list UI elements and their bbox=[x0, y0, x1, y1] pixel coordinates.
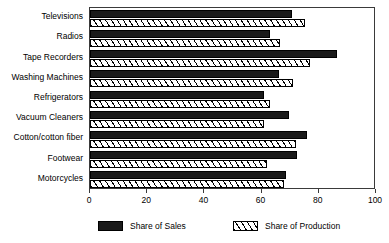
legend-item-share-of-sales: Share of Sales bbox=[98, 219, 186, 233]
legend-label-share-of-production: Share of Production bbox=[265, 221, 340, 231]
x-axis: 020406080100 bbox=[89, 189, 375, 213]
x-tick-label: 100 bbox=[368, 195, 382, 205]
bar bbox=[90, 50, 337, 58]
bar bbox=[90, 91, 264, 99]
bar bbox=[90, 79, 293, 87]
x-tick-label: 60 bbox=[256, 195, 265, 205]
x-tick-label: 20 bbox=[141, 195, 150, 205]
category-label-vacuum-cleaners: Vacuum Cleaners bbox=[16, 113, 83, 122]
category-label-radios: Radios bbox=[57, 32, 83, 41]
bar bbox=[90, 171, 286, 179]
bar bbox=[90, 10, 292, 18]
bar bbox=[90, 100, 270, 108]
x-tick-mark bbox=[375, 189, 376, 193]
bar-chart: Televisions Radios Tape Recorders Washin… bbox=[0, 0, 389, 243]
category-label-footwear: Footwear bbox=[48, 154, 83, 163]
x-tick-mark bbox=[146, 189, 147, 193]
bar bbox=[90, 151, 297, 159]
legend-label-share-of-sales: Share of Sales bbox=[130, 221, 186, 231]
x-tick-label: 80 bbox=[313, 195, 322, 205]
bar bbox=[90, 111, 289, 119]
bar bbox=[90, 131, 307, 139]
hatched-swatch-icon bbox=[233, 221, 258, 231]
plot-area bbox=[89, 7, 375, 189]
category-label-washing-machines: Washing Machines bbox=[12, 73, 84, 82]
category-axis-labels: Televisions Radios Tape Recorders Washin… bbox=[0, 7, 86, 189]
bar bbox=[90, 160, 267, 168]
category-label-refrigerators: Refrigerators bbox=[34, 93, 83, 102]
chart-legend: Share of Sales Share of Production bbox=[0, 219, 389, 237]
category-label-motorcycles: Motorcycles bbox=[38, 174, 83, 183]
bar bbox=[90, 70, 279, 78]
bar bbox=[90, 39, 280, 47]
x-tick-mark bbox=[261, 189, 262, 193]
bars-layer bbox=[90, 8, 374, 188]
bar bbox=[90, 59, 310, 67]
solid-black-swatch-icon bbox=[98, 221, 123, 231]
x-tick-label: 0 bbox=[87, 195, 92, 205]
x-tick-mark bbox=[318, 189, 319, 193]
x-tick-label: 40 bbox=[199, 195, 208, 205]
legend-item-share-of-production: Share of Production bbox=[233, 219, 340, 233]
category-label-televisions: Televisions bbox=[41, 12, 83, 21]
bar bbox=[90, 180, 284, 188]
x-tick-mark bbox=[89, 189, 90, 193]
category-label-cotton-cotton-fiber: Cotton/cotton fiber bbox=[14, 133, 83, 142]
bar bbox=[90, 30, 270, 38]
bar bbox=[90, 120, 264, 128]
x-tick-mark bbox=[203, 189, 204, 193]
category-label-tape-recorders: Tape Recorders bbox=[23, 53, 83, 62]
bar bbox=[90, 19, 305, 27]
bar bbox=[90, 140, 296, 148]
